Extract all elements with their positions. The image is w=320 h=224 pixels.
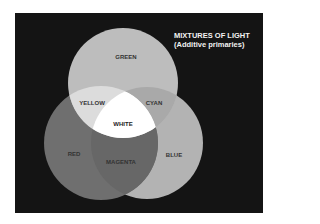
label-blue: BLUE <box>166 152 182 158</box>
diagram-title: MIXTURES OF LIGHT (Additive primaries) <box>174 31 250 49</box>
label-cyan: CYAN <box>146 100 162 106</box>
label-green: GREEN <box>115 54 136 60</box>
label-magenta: MAGENTA <box>106 159 137 165</box>
title-line-2: (Additive primaries) <box>174 40 250 49</box>
label-red: RED <box>68 151 81 157</box>
label-yellow: YELLOW <box>79 100 105 106</box>
title-line-1: MIXTURES OF LIGHT <box>174 31 250 40</box>
label-white: WHITE <box>113 121 132 127</box>
